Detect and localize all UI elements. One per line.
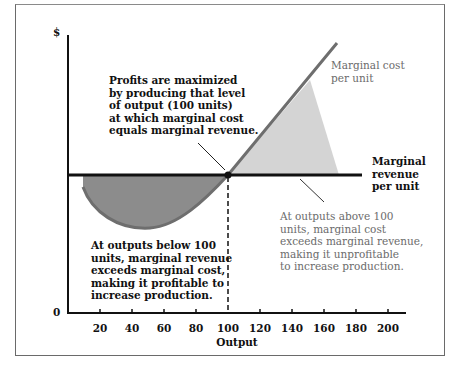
- x-tick-60: 60: [157, 322, 172, 334]
- leader-profit-max: [198, 143, 225, 170]
- x-tick-180: 180: [345, 322, 367, 334]
- x-axis-label: Output: [216, 336, 257, 348]
- y-axis-label: $: [53, 26, 60, 39]
- x-tick-100: 100: [217, 322, 239, 334]
- annotation-profit-max: Profits are maximized by producing that …: [109, 74, 258, 137]
- mr-line-label: Marginal revenue per unit: [372, 155, 426, 193]
- x-tick-200: 200: [377, 322, 399, 334]
- x-tick-120: 120: [249, 322, 271, 334]
- annotation-below-100: At outputs below 100 units, marginal rev…: [91, 239, 232, 302]
- x-tick-140: 140: [281, 322, 303, 334]
- leader-above: [300, 179, 324, 202]
- x-tick-40: 40: [125, 322, 140, 334]
- x-tick-20: 20: [93, 322, 108, 334]
- x-tick-80: 80: [189, 322, 204, 334]
- annotation-above-100: At outputs above 100 units, marginal cos…: [280, 210, 423, 273]
- mc-curve-label: Marginal cost per unit: [331, 59, 405, 84]
- origin-label: 0: [53, 306, 60, 319]
- intersection-point: [225, 172, 232, 179]
- x-tick-160: 160: [313, 322, 335, 334]
- region-mr-exceeds-mc: [83, 175, 228, 228]
